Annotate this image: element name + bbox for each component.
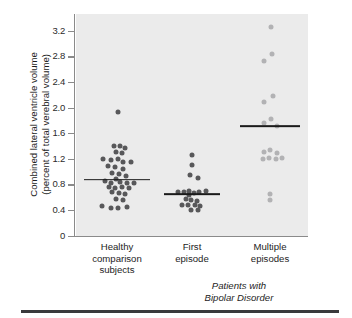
data-point: [279, 155, 284, 160]
y-tick-mark: [68, 82, 75, 83]
data-point: [262, 58, 267, 63]
data-point: [106, 184, 111, 189]
data-point: [121, 159, 126, 164]
data-point: [269, 52, 274, 57]
y-tick-mark: [68, 133, 75, 134]
data-point: [260, 156, 265, 161]
data-point: [116, 171, 121, 176]
median-line: [240, 125, 300, 127]
median-line: [84, 179, 150, 181]
data-point: [108, 205, 113, 210]
data-point: [119, 150, 124, 155]
data-point: [123, 191, 128, 196]
data-point: [123, 145, 128, 150]
data-point: [262, 100, 267, 105]
data-point: [195, 175, 200, 180]
data-point: [115, 109, 120, 114]
y-tick-mark: [68, 184, 75, 185]
data-point: [128, 159, 133, 164]
y-axis-title-line1: Combined lateral ventricle volume: [28, 14, 40, 234]
x-category-label-line3: subjects: [62, 264, 172, 276]
y-tick-mark: [68, 210, 75, 211]
data-point: [131, 180, 136, 185]
data-point: [195, 208, 200, 213]
data-point: [268, 148, 273, 153]
y-tick-mark: [68, 159, 75, 160]
data-point: [268, 116, 273, 121]
y-tick-mark: [68, 56, 75, 57]
x-category-label-line2: episodes: [215, 253, 325, 265]
data-point: [112, 143, 117, 148]
data-point: [120, 197, 125, 202]
patient-group-note-line1: Patients with: [159, 280, 319, 292]
data-point: [273, 156, 278, 161]
data-point: [117, 143, 122, 148]
data-point: [115, 205, 120, 210]
data-point: [110, 170, 115, 175]
data-point: [190, 162, 195, 167]
data-point: [110, 190, 115, 195]
y-tick-mark: [68, 108, 75, 109]
y-axis-line: [74, 14, 75, 237]
bottom-rule: [21, 310, 339, 313]
data-point: [101, 157, 106, 162]
data-point: [192, 202, 197, 207]
median-line: [164, 194, 220, 196]
chart-figure: 3.22.82.42.01.61.20.80.40 Combined later…: [0, 0, 352, 318]
patient-group-note-line2: Bipolar Disorder: [159, 292, 319, 304]
x-category-label-line1: Multiple: [215, 241, 325, 253]
data-point: [268, 198, 273, 203]
data-point: [125, 204, 130, 209]
patient-group-note: Patients with Bipolar Disorder: [159, 280, 319, 303]
data-point: [100, 203, 105, 208]
data-point: [267, 155, 272, 160]
x-category-label: Multipleepisodes: [215, 241, 325, 264]
data-point: [268, 25, 273, 30]
data-point: [109, 157, 114, 162]
data-point: [179, 202, 184, 207]
data-point: [126, 186, 131, 191]
data-point: [115, 157, 120, 162]
data-point: [124, 173, 129, 178]
data-point: [113, 164, 118, 169]
data-point: [114, 150, 119, 155]
data-point: [119, 185, 124, 190]
x-axis-line: [74, 236, 308, 237]
data-point: [190, 153, 195, 158]
data-point: [268, 191, 273, 196]
data-point: [105, 164, 110, 169]
data-point: [189, 208, 194, 213]
data-point: [188, 172, 193, 177]
data-point: [275, 150, 280, 155]
data-point: [116, 191, 121, 196]
data-point: [261, 149, 266, 154]
y-tick-mark: [68, 31, 75, 32]
data-point: [120, 166, 125, 171]
data-point: [183, 196, 188, 201]
data-point: [189, 197, 194, 202]
data-point: [270, 94, 275, 99]
y-tick-mark: [68, 236, 75, 237]
y-axis-title: Combined lateral ventricle volume (perce…: [28, 14, 53, 234]
y-axis-title-line2: (percent of total verebral volume): [40, 14, 52, 234]
data-point: [114, 196, 119, 201]
